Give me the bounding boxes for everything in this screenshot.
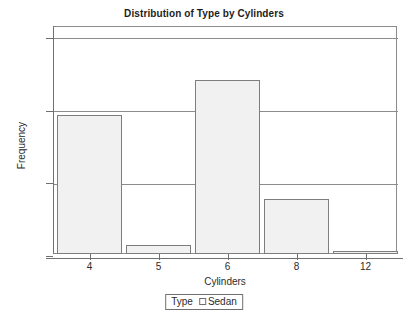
x-tick-4 bbox=[90, 254, 91, 260]
chart-title: Distribution of Type by Cylinders bbox=[0, 8, 408, 19]
legend-entry-sedan[interactable]: Sedan bbox=[199, 296, 237, 307]
x-tick-label-12: 12 bbox=[346, 261, 386, 272]
bar-8[interactable] bbox=[264, 199, 329, 254]
x-tick-label-6: 6 bbox=[208, 261, 248, 272]
legend-title: Type bbox=[171, 296, 193, 307]
y-axis-title: Frequency bbox=[16, 106, 27, 186]
y-tick-0 bbox=[46, 256, 53, 257]
legend-swatch-icon bbox=[199, 298, 206, 305]
y-tick-150 bbox=[46, 38, 53, 39]
x-tick-label-4: 4 bbox=[70, 261, 110, 272]
x-tick-label-8: 8 bbox=[277, 261, 317, 272]
x-axis-title: Cylinders bbox=[53, 276, 397, 287]
bars-layer bbox=[53, 26, 397, 254]
clipped-caption bbox=[0, 314, 408, 322]
x-tick-8 bbox=[297, 254, 298, 260]
legend-label-sedan: Sedan bbox=[208, 296, 237, 307]
bar-4[interactable] bbox=[57, 115, 122, 254]
bar-6[interactable] bbox=[195, 80, 260, 254]
y-axis-line bbox=[53, 26, 54, 254]
x-tick-5 bbox=[159, 254, 160, 260]
bar-5[interactable] bbox=[126, 245, 191, 254]
x-axis-line bbox=[46, 258, 403, 259]
y-tick-50 bbox=[46, 183, 53, 184]
x-tick-12 bbox=[366, 254, 367, 260]
x-tick-6 bbox=[228, 254, 229, 260]
chart-figure: Distribution of Type by Cylinders 150 10… bbox=[0, 0, 408, 322]
x-tick-label-5: 5 bbox=[139, 261, 179, 272]
y-tick-100 bbox=[46, 111, 53, 112]
legend: Type Sedan bbox=[165, 294, 243, 310]
